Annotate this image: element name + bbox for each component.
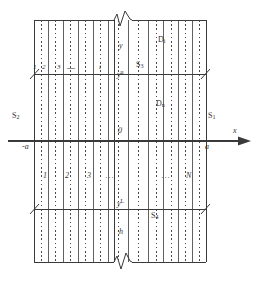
schematic-figure: y yu yL 0 h x -a a S2 S1 S3 S4 Di Dn 1 2… bbox=[0, 0, 257, 282]
bottom-strip-index-1: 1 bbox=[43, 172, 47, 180]
y-coordinate-label: y bbox=[119, 42, 123, 50]
x-axis-label: x bbox=[233, 127, 237, 135]
bottom-strip-ellipsis-left: ··· bbox=[105, 174, 115, 182]
top-strip-index-1: 1 bbox=[33, 64, 37, 71]
region-label-s1: S1 bbox=[208, 112, 215, 120]
bottom-strip-index-n: N bbox=[186, 172, 191, 180]
x-axis-arrowhead bbox=[238, 137, 251, 146]
break-symbol-bottom bbox=[114, 253, 132, 269]
break-symbol-top bbox=[114, 11, 132, 26]
top-strip-index-2: 2 bbox=[42, 64, 46, 71]
upper-interface-label: yu bbox=[117, 69, 124, 79]
top-strip-ellipsis: — bbox=[67, 64, 76, 72]
bottom-strip-index-2: 2 bbox=[65, 172, 69, 180]
right-bound-label: a bbox=[205, 143, 209, 151]
bottom-strip-index-3: 3 bbox=[87, 172, 91, 180]
height-label: h bbox=[119, 228, 123, 236]
region-label-s3: S3 bbox=[136, 61, 143, 69]
region-label-s2: S2 bbox=[12, 112, 19, 120]
origin-label: 0 bbox=[118, 127, 122, 135]
left-bound-label: -a bbox=[22, 143, 29, 151]
x-axis-group bbox=[8, 137, 251, 146]
domain-label-dn: Dn bbox=[156, 100, 165, 108]
top-strip-index-3: 3 bbox=[57, 64, 61, 71]
domain-label-di: Di bbox=[158, 36, 165, 44]
bottom-strip-ellipsis-right: ··· bbox=[161, 174, 171, 182]
schematic-drawing bbox=[0, 0, 257, 282]
top-strip-index-i: i bbox=[99, 64, 101, 71]
lower-interface-label: yL bbox=[117, 198, 124, 208]
region-label-s4: S4 bbox=[151, 212, 158, 220]
